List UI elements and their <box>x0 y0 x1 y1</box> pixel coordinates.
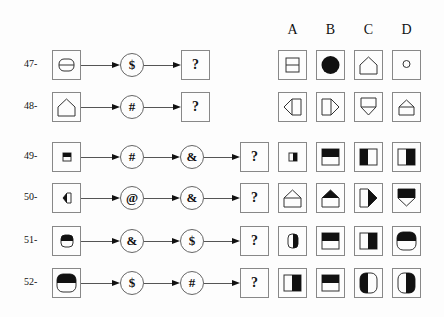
connector-line <box>204 283 233 284</box>
house-outline-icon <box>53 93 80 121</box>
option-a[interactable] <box>278 226 307 256</box>
option-c[interactable] <box>354 268 383 298</box>
circle-filled-icon <box>317 51 344 79</box>
answer-box: ? <box>181 92 210 122</box>
rect-right-filled-large-icon <box>393 143 420 171</box>
start-figure <box>52 268 81 298</box>
option-a[interactable] <box>278 50 307 80</box>
option-d[interactable] <box>392 268 421 298</box>
question-mark: ? <box>182 99 209 115</box>
start-figure <box>52 50 81 80</box>
option-b[interactable] <box>316 226 345 256</box>
arrowhead-icon <box>112 154 120 160</box>
option-b[interactable] <box>316 183 345 213</box>
question-number: 49- <box>24 150 48 161</box>
operator-circle: $ <box>180 229 204 253</box>
option-d[interactable] <box>392 226 421 256</box>
operator-circle: $ <box>120 271 144 295</box>
cyl-right-filled-large-icon <box>393 269 420 297</box>
arrowhead-icon <box>112 104 120 110</box>
connector-line <box>144 283 173 284</box>
house-right-icon <box>317 93 344 121</box>
option-c[interactable] <box>354 142 383 172</box>
question-number: 48- <box>24 100 48 111</box>
arrowhead-icon <box>232 280 240 286</box>
connector-line <box>204 157 233 158</box>
box-rounded-outline-hline-icon <box>53 51 80 79</box>
option-column-header: C <box>354 22 383 38</box>
option-b[interactable] <box>316 92 345 122</box>
house-left-icon <box>279 93 306 121</box>
option-a[interactable] <box>278 183 307 213</box>
option-c[interactable] <box>354 92 383 122</box>
connector-line <box>204 198 233 199</box>
arrowhead-icon <box>112 62 120 68</box>
start-figure <box>52 142 81 172</box>
operator-circle: & <box>120 229 144 253</box>
rect-right-filled-large-icon <box>279 269 306 297</box>
operator-circle: # <box>120 95 144 119</box>
connector-line <box>81 157 113 158</box>
circle-small-icon <box>393 51 420 79</box>
answer-box: ? <box>240 226 269 256</box>
connector-line <box>144 241 173 242</box>
rect-right-filled-small-icon <box>279 143 306 171</box>
question-number: 50- <box>24 191 48 202</box>
question-mark: ? <box>241 149 268 165</box>
cyl-right-filled-small-icon <box>279 227 306 255</box>
option-a[interactable] <box>278 268 307 298</box>
arrowhead-icon <box>172 280 180 286</box>
arrowhead-icon <box>112 195 120 201</box>
house-up-outline-icon <box>279 184 306 212</box>
cyl-left-filled-large-icon <box>355 269 382 297</box>
question-number: 51- <box>24 234 48 245</box>
question-number: 47- <box>24 58 48 69</box>
option-d[interactable] <box>392 183 421 213</box>
option-d[interactable] <box>392 50 421 80</box>
house-right-filled-icon <box>355 184 382 212</box>
option-column-header: B <box>316 22 345 38</box>
house-left-filled-small-icon <box>53 184 80 212</box>
option-a[interactable] <box>278 142 307 172</box>
option-d[interactable] <box>392 142 421 172</box>
option-b[interactable] <box>316 268 345 298</box>
connector-line <box>144 157 173 158</box>
rect-top-filled-large-icon <box>317 227 344 255</box>
rect-top-filled-large-icon <box>317 143 344 171</box>
house-up-filled-icon <box>317 184 344 212</box>
option-d[interactable] <box>392 92 421 122</box>
arrowhead-icon <box>232 195 240 201</box>
option-column-header: A <box>278 22 307 38</box>
answer-box: ? <box>240 268 269 298</box>
option-b[interactable] <box>316 142 345 172</box>
arrowhead-icon <box>172 154 180 160</box>
operator-circle: & <box>180 186 204 210</box>
start-figure <box>52 226 81 256</box>
arrowhead-icon <box>232 154 240 160</box>
option-b[interactable] <box>316 50 345 80</box>
question-mark: ? <box>241 190 268 206</box>
rect-top-filled-small-icon <box>53 143 80 171</box>
arrowhead-icon <box>173 104 181 110</box>
rect-right-filled-large-icon <box>355 227 382 255</box>
question-mark: ? <box>182 57 209 73</box>
connector-line <box>144 107 174 108</box>
option-c[interactable] <box>354 50 383 80</box>
option-column-header: D <box>392 22 421 38</box>
option-c[interactable] <box>354 183 383 213</box>
connector-line <box>81 65 113 66</box>
cyl-top-filled-small-icon <box>53 227 80 255</box>
house-up-icon <box>393 93 420 121</box>
house-down-icon <box>355 93 382 121</box>
operator-circle: # <box>120 145 144 169</box>
connector-line <box>144 198 173 199</box>
connector-line <box>204 241 233 242</box>
question-number: 52- <box>24 276 48 287</box>
operator-circle: & <box>180 145 204 169</box>
answer-box: ? <box>240 142 269 172</box>
square-split-h-icon <box>279 51 306 79</box>
arrowhead-icon <box>172 238 180 244</box>
option-a[interactable] <box>278 92 307 122</box>
option-c[interactable] <box>354 226 383 256</box>
answer-box: ? <box>181 50 210 80</box>
